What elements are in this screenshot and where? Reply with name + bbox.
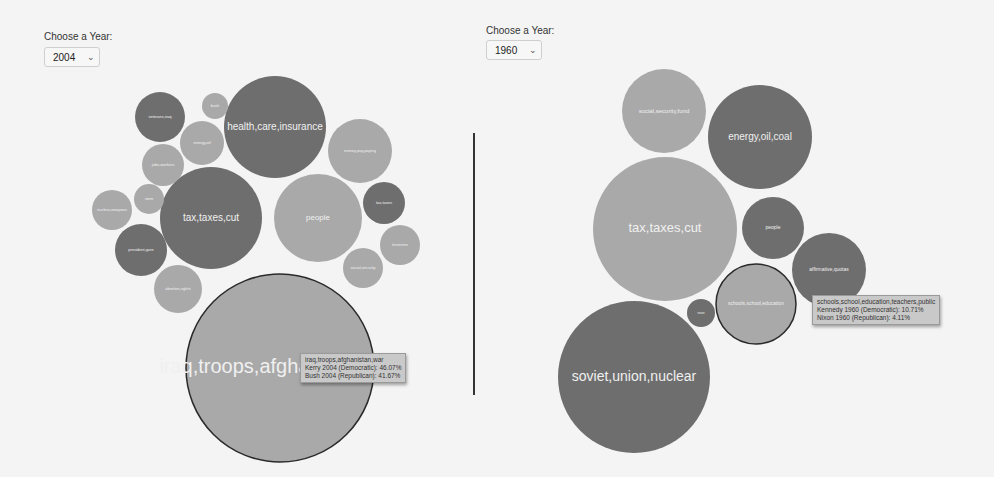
- tooltip-line-republican: Bush 2004 (Republican): 41.67%: [305, 372, 401, 380]
- bubble[interactable]: energy,oil,coal: [708, 85, 812, 189]
- bubble-label: money,pay,paying: [344, 148, 376, 153]
- bubble[interactable]: tax,taxes,cut: [593, 157, 737, 301]
- bubble[interactable]: stem: [134, 184, 164, 214]
- bubble[interactable]: nixon: [687, 299, 715, 327]
- bubble-chart: iraq,troops,afghanistan,wartax,taxes,cut…: [0, 0, 994, 477]
- bubble-label: bush: [211, 103, 220, 108]
- tooltip-line-democratic: Kennedy 1960 (Democratic): 10.71%: [817, 306, 935, 314]
- bubble-label: health,care,insurance: [227, 121, 323, 132]
- bubble-label: tax,taxes,cut: [629, 220, 702, 235]
- tooltip-line-democratic: Kerry 2004 (Democratic): 46.07%: [305, 364, 401, 372]
- bubble-label: people: [765, 224, 780, 230]
- bubble[interactable]: tax,taxes: [363, 182, 405, 224]
- bubble-label: social,security: [350, 265, 375, 270]
- bubble[interactable]: terrorism: [380, 225, 420, 265]
- bubble[interactable]: social,security,fund: [622, 69, 706, 153]
- bubble[interactable]: jobs,workers: [142, 144, 184, 186]
- bubble-group-2004: iraq,troops,afghanistan,wartax,taxes,cut…: [92, 76, 420, 462]
- bubble-label: tax,taxes: [376, 200, 392, 205]
- bubble-label: president,gore: [128, 247, 154, 252]
- bubble[interactable]: soviet,union,nuclear: [558, 301, 710, 453]
- bubble-label: stem: [145, 196, 154, 201]
- bubble-label: abortion,rights: [165, 286, 190, 291]
- bubble[interactable]: schools,school,education: [716, 264, 796, 344]
- bubble[interactable]: abortion,rights: [154, 265, 202, 313]
- bubble[interactable]: money,pay,paying: [328, 119, 392, 183]
- bubble[interactable]: people: [742, 197, 804, 259]
- bubble[interactable]: president,gore: [115, 224, 167, 276]
- bubble[interactable]: nuclear,weapons: [92, 190, 132, 230]
- bubble-label: energy,oil,coal: [728, 131, 792, 142]
- bubble-label: nuclear,weapons: [97, 207, 127, 212]
- bubble[interactable]: tax,taxes,cut: [160, 167, 262, 269]
- bubble-label: affirmative,quotas: [809, 266, 849, 272]
- tooltip-topic: schools,school,education,teachers,public: [817, 298, 935, 306]
- tooltip-line-republican: Nixon 1960 (Republican): 4.11%: [817, 314, 935, 322]
- bubble-label: veterans,iraq: [148, 114, 171, 119]
- bubble-label: soviet,union,nuclear: [572, 368, 697, 384]
- tooltip-right: schools,school,education,teachers,public…: [812, 295, 940, 325]
- bubble[interactable]: bush: [202, 93, 228, 119]
- tooltip-left: iraq,troops,afghanistan,war Kerry 2004 (…: [300, 353, 406, 383]
- bubble[interactable]: veterans,iraq: [135, 92, 185, 142]
- bubble-label: terrorism: [392, 242, 408, 247]
- bubble-label: energy,oil: [193, 140, 210, 145]
- bubble-label: nixon: [697, 311, 705, 315]
- bubble-label: schools,school,education: [728, 300, 784, 306]
- bubble[interactable]: social,security: [343, 248, 383, 288]
- bubble[interactable]: people: [274, 174, 362, 262]
- bubble-label: jobs,workers: [151, 162, 174, 167]
- bubble-group-1960: tax,taxes,cutsoviet,union,nuclearenergy,…: [558, 69, 866, 453]
- tooltip-topic: iraq,troops,afghanistan,war: [305, 356, 401, 364]
- bubble-label: people: [306, 213, 331, 222]
- bubble[interactable]: energy,oil: [180, 121, 224, 165]
- panel-divider: [473, 133, 475, 395]
- bubble[interactable]: health,care,insurance: [224, 76, 326, 178]
- bubble-label: tax,taxes,cut: [183, 212, 239, 223]
- bubble-label: social,security,fund: [639, 108, 690, 114]
